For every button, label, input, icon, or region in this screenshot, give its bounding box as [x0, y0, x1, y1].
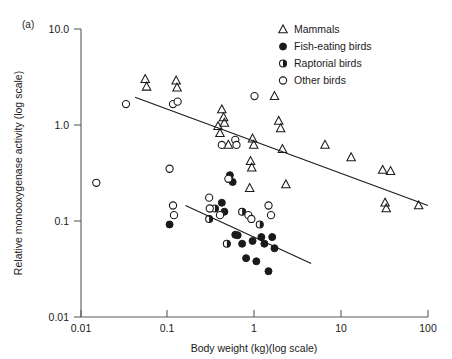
- data-point: [276, 124, 284, 132]
- data-point: [269, 234, 276, 241]
- y-tick-label: 0.1: [54, 215, 69, 227]
- data-point: [206, 205, 213, 212]
- data-point: [265, 268, 272, 275]
- x-tick-label: 0.1: [160, 322, 175, 334]
- y-tick-label: 0.01: [49, 311, 70, 323]
- y-axis-ticks: 10.0 1.0 0.1 0.01: [49, 23, 81, 323]
- x-tick-label: 1: [251, 322, 257, 334]
- data-point: [253, 258, 260, 265]
- data-point: [386, 167, 394, 175]
- scatter-plot: (a) 10.0 1.0 0.1 0.01 0.01 0.1 1 10 100: [0, 0, 452, 359]
- y-axis-title: Relative monooxygenase activity (log sca…: [12, 71, 24, 275]
- data-point: [282, 180, 290, 188]
- data-point: [166, 165, 173, 172]
- data-point: [172, 76, 180, 84]
- data-point: [218, 105, 226, 113]
- data-point: [206, 194, 213, 201]
- x-tick-label: 100: [419, 322, 437, 334]
- data-point: [267, 212, 274, 219]
- data-point: [122, 101, 129, 108]
- data-point: [169, 202, 176, 209]
- series-other-birds: [93, 93, 275, 223]
- data-points-layer: [93, 75, 428, 275]
- data-point: [141, 75, 149, 83]
- data-point: [381, 198, 389, 206]
- legend-marker-filled-circle: [280, 43, 287, 50]
- data-point: [245, 184, 253, 192]
- x-tick-label: 10: [335, 322, 347, 334]
- data-point: [218, 199, 225, 206]
- data-point: [233, 141, 240, 148]
- data-point: [251, 93, 258, 100]
- data-point: [142, 82, 150, 90]
- data-point: [347, 153, 355, 161]
- x-axis-title: Body weight (kg)(log scale): [191, 342, 318, 354]
- legend-marker-open-circle: [279, 77, 286, 84]
- legend-marker-half-filled-circle: [280, 60, 287, 67]
- data-point: [321, 140, 329, 148]
- x-axis-ticks: 0.01 0.1 1 10 100: [71, 310, 437, 334]
- x-tick-label: 0.01: [71, 322, 92, 334]
- legend-label: Raptorial birds: [294, 57, 362, 69]
- data-point: [223, 240, 230, 247]
- data-point: [234, 232, 241, 239]
- mammals-regression: [135, 97, 428, 205]
- panel-label: (a): [22, 19, 34, 30]
- data-point: [93, 179, 100, 186]
- legend-label: Fish-eating birds: [294, 40, 372, 52]
- data-point: [246, 157, 254, 165]
- data-point: [270, 92, 278, 100]
- data-point: [218, 141, 225, 148]
- data-point: [256, 221, 263, 228]
- data-point: [274, 116, 282, 124]
- data-point: [265, 202, 272, 209]
- data-point: [239, 240, 246, 247]
- legend-marker-open-triangle: [279, 25, 287, 33]
- data-point: [249, 237, 256, 244]
- data-point: [378, 165, 386, 173]
- y-tick-label: 10.0: [49, 23, 70, 35]
- data-point: [170, 212, 177, 219]
- legend-label: Mammals: [294, 23, 340, 35]
- data-point: [174, 98, 181, 105]
- legend-label: Other birds: [294, 74, 346, 86]
- data-point: [166, 221, 173, 228]
- figure-panel: (a) 10.0 1.0 0.1 0.01 0.01 0.1 1 10 100: [0, 0, 452, 359]
- legend: MammalsFish-eating birdsRaptorial birdsO…: [279, 23, 372, 86]
- y-tick-label: 1.0: [54, 119, 69, 131]
- data-point: [225, 175, 232, 182]
- series-mammals: [141, 75, 423, 212]
- data-point: [243, 255, 250, 262]
- data-point: [216, 212, 223, 219]
- data-point: [248, 215, 255, 222]
